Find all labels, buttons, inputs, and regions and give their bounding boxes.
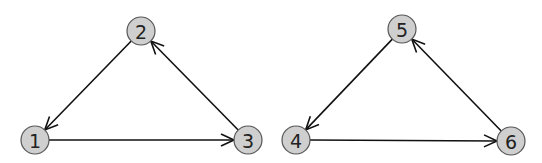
node-label: 1 [29,130,41,152]
edge-1-to-3 [49,134,234,146]
edge-line [306,39,393,130]
node-label: 2 [135,21,147,43]
node-2: 2 [127,17,155,45]
node-5: 5 [388,15,416,43]
edge-6-to-5 [412,39,501,131]
edge-line [45,41,131,130]
edge-4-to-6 [310,135,497,147]
node-3: 3 [234,126,262,154]
nodes-layer: 123456 [21,15,525,155]
node-label: 6 [505,131,517,153]
node-4: 4 [282,126,310,154]
edge-line [310,140,497,141]
edge-5-to-4 [306,39,393,130]
edge-2-to-1 [45,41,131,130]
node-1: 1 [21,126,49,154]
node-label: 3 [242,130,254,152]
edge-line [151,41,238,130]
edge-line [412,39,501,131]
node-label: 4 [290,130,302,152]
edges-layer [45,39,501,147]
node-label: 5 [396,19,408,41]
node-6: 6 [497,127,525,155]
edge-3-to-2 [151,41,238,130]
graph-diagram: 123456 [0,0,542,163]
